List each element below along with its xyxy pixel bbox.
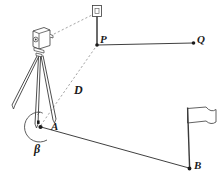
- label-point-a: A: [50, 120, 58, 132]
- point-marker-b: [188, 167, 192, 171]
- point-marker-p: [95, 43, 99, 47]
- diagram-canvas: P Q D A β B: [0, 0, 224, 189]
- label-distance-d: D: [73, 83, 83, 97]
- point-marker-instrument-foot: [37, 121, 40, 124]
- point-marker-a: [38, 125, 42, 129]
- prism-target: [93, 6, 102, 17]
- diagram-background: [0, 0, 224, 189]
- point-marker-q: [192, 41, 196, 45]
- label-point-b: B: [193, 159, 201, 171]
- label-point-p: P: [100, 33, 107, 45]
- surveying-diagram: P Q D A β B: [0, 0, 224, 189]
- label-point-q: Q: [197, 33, 205, 45]
- label-angle-beta: β: [33, 142, 41, 156]
